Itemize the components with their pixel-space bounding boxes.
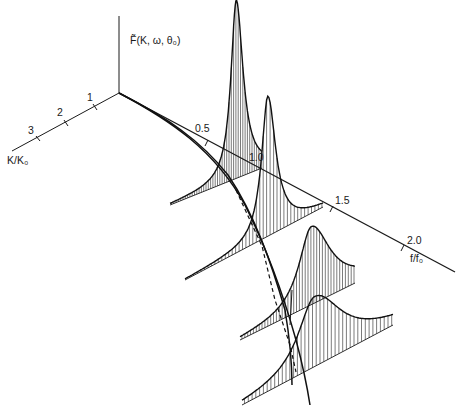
spectrum-3 [240, 226, 355, 340]
vertical-axis-label: F̃(K, ω, θ₀) [130, 34, 180, 46]
spectrum-4 [242, 296, 393, 406]
k-tick-label-3: 3 [28, 124, 34, 136]
wavenumber-axis-label: K/K₀ [7, 154, 28, 166]
ridge-curve-inner [119, 93, 292, 385]
k-tick-label-1: 1 [87, 91, 93, 103]
f-tick-2.0 [401, 245, 404, 251]
f-tick-label-1.0: 1.0 [249, 151, 264, 163]
k-tick-label-2: 2 [57, 106, 63, 118]
f-tick-label-2.0: 2.0 [407, 234, 422, 246]
f-tick-label-0.5: 0.5 [195, 122, 210, 134]
spectral-diagram: F̃(K, ω, θ₀) K/K₀ f/f₀ 1 2 3 0.5 1.0 1.5… [0, 0, 467, 416]
ridge-curve-outer [119, 93, 310, 405]
f-tick-label-1.5: 1.5 [335, 194, 350, 206]
peak-locus-dashed [236, 190, 296, 372]
frequency-axis [119, 93, 455, 272]
spectrum-1 [170, 1, 262, 205]
frequency-axis-label: f/f₀ [410, 252, 423, 264]
f-tick-0.5 [205, 140, 208, 146]
